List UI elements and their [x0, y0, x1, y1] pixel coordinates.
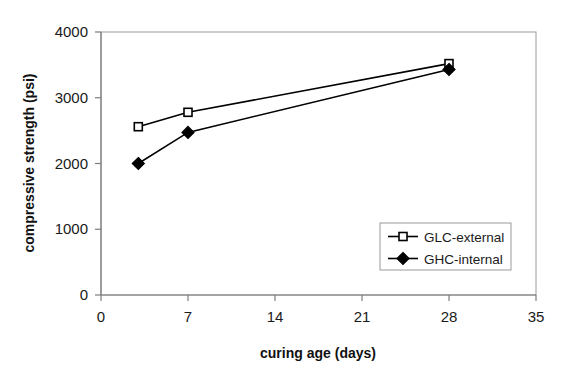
data-point-glc-external-3d	[134, 123, 142, 131]
data-point-glc-external-7d	[184, 108, 192, 116]
x-tick-label-7: 7	[184, 308, 192, 325]
chart-legend: GLC-external GHC-internal	[380, 223, 511, 270]
x-tick-label-28: 28	[441, 308, 458, 325]
y-tick-label-1000: 1000	[55, 220, 88, 237]
x-tick-label-0: 0	[97, 308, 105, 325]
y-tick-label-3000: 3000	[55, 89, 88, 106]
y-tick-label-2000: 2000	[55, 155, 88, 172]
x-tick-label-35: 35	[528, 308, 545, 325]
x-tick-label-21: 21	[354, 308, 371, 325]
legend-label-ghc-internal: GHC-internal	[424, 252, 503, 267]
y-axis-title: compressive strength (psi)	[21, 74, 37, 253]
y-tick-label-0: 0	[80, 286, 88, 303]
x-tick-label-14: 14	[267, 308, 284, 325]
legend-marker-open-square-icon	[399, 233, 407, 241]
y-tick-label-4000: 4000	[55, 23, 88, 40]
chart-figure: 0 1000 2000 3000 4000 0 7 14 21 28 35 co…	[0, 0, 567, 384]
legend-label-glc-external: GLC-external	[424, 230, 504, 245]
x-axis-title: curing age (days)	[260, 345, 376, 361]
line-chart: 0 1000 2000 3000 4000 0 7 14 21 28 35 co…	[0, 0, 567, 384]
